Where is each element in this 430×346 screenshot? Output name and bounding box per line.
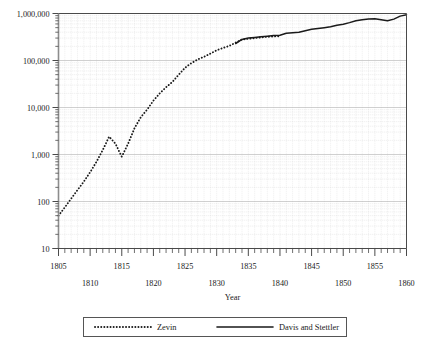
x-axis-tick-label-upper: 1805 [50,262,66,271]
chart-plot-svg [0,0,430,346]
x-axis-tick-label-upper: 1845 [303,262,319,271]
legend-label: Zevin [157,323,177,332]
chart-figure: 101001,00010,000100,0001,000,00018051815… [0,0,430,346]
x-axis-tick-label-upper: 1855 [367,262,383,271]
x-axis-title: Year [225,293,240,302]
x-axis-tick-label-lower: 1840 [272,279,288,288]
x-axis-tick-label-lower: 1820 [145,279,161,288]
y-axis-tick-label: 100 [37,197,49,206]
x-axis-tick-label-lower: 1810 [82,279,98,288]
x-axis-tick-label-lower: 1850 [335,279,351,288]
y-axis-tick-label: 1,000,000 [17,9,50,18]
x-axis-tick-label-upper: 1835 [240,262,256,271]
x-axis-ticks [59,249,407,257]
y-axis-tick-label: 100,000 [23,56,50,65]
legend-label: Davis and Stettler [279,323,339,332]
x-axis-tick-label-lower: 1830 [208,279,224,288]
y-axis-tick-label: 10,000 [27,103,50,112]
plot-background [59,14,407,249]
y-axis-tick-label: 1,000 [31,150,49,159]
y-axis-tick-label: 10 [41,244,49,253]
x-axis-tick-label-upper: 1815 [114,262,130,271]
y-axis-ticks [53,14,59,249]
x-axis-tick-label-upper: 1825 [177,262,193,271]
x-axis-tick-label-lower: 1860 [398,279,414,288]
